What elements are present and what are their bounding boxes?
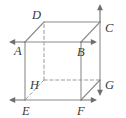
vertex-label-e: E [22, 105, 30, 118]
cube-drawing [0, 0, 126, 118]
vertex-label-h: H [30, 79, 39, 92]
arrow-head-c-up [97, 4, 103, 10]
cube-edge-bc [81, 22, 100, 42]
vertex-label-d: D [32, 9, 41, 22]
vertex-label-b: B [77, 46, 85, 59]
cube-edge-gf [81, 80, 100, 100]
cube-edge-ad [25, 22, 44, 42]
vertex-label-f: F [77, 105, 85, 118]
arrow-head-g-down [97, 90, 103, 96]
arrow-head-b-right [91, 39, 97, 45]
cube-figure: ABCDEFGH [0, 0, 126, 118]
vertex-label-c: C [105, 22, 113, 35]
vertex-label-a: A [14, 45, 22, 58]
vertex-label-g: G [105, 79, 114, 92]
direction-arrows-group [9, 4, 103, 103]
arrow-head-e-left [9, 97, 15, 103]
arrow-head-f-right [91, 97, 97, 103]
